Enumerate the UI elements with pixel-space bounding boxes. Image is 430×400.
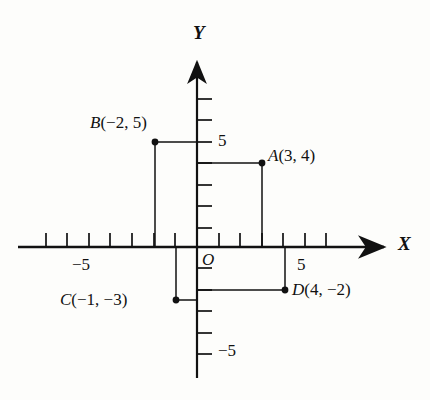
point-dot-b [152,139,159,146]
point-label-c: C(−1, −3) [60,290,127,310]
point-label-d: D(4, −2) [292,280,351,300]
point-label-a-name: A [268,146,278,165]
guides-point-a [197,163,262,247]
coordinate-plane-svg [0,0,430,400]
point-label-a: A(3, 4) [268,146,315,166]
x-axis-ticks [46,233,326,247]
point-label-b-coords: (−2, 5) [100,113,146,132]
x-tick-label-5: 5 [297,255,306,275]
origin-label: O [202,250,214,270]
guides-point-b [155,142,197,247]
y-axis-label: Y [193,22,205,44]
point-label-d-coords: (4, −2) [304,280,350,299]
point-label-a-coords: (3, 4) [278,146,315,165]
point-dot-a [259,160,266,167]
point-label-b: B(−2, 5) [90,113,147,133]
point-label-c-name: C [60,290,71,309]
point-dot-c [173,297,180,304]
x-axis-label: X [398,233,411,255]
x-tick-label-neg5: −5 [72,255,90,275]
coordinate-plane-figure: Y X O −5 5 5 −5 B(−2, 5) A(3, 4) C(−1, −… [0,0,430,400]
point-dot-d [282,287,289,294]
guides-point-c [176,247,197,300]
point-label-b-name: B [90,113,100,132]
y-tick-label-neg5: −5 [218,341,236,361]
point-label-d-name: D [292,280,304,299]
y-axis-ticks [197,99,212,354]
point-label-c-coords: (−1, −3) [71,290,127,309]
y-tick-label-5: 5 [218,131,227,151]
